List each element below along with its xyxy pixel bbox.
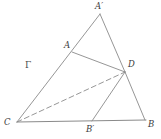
segment-group [17, 14, 146, 122]
geometry-figure: A′ A D C B′ B Γ [0, 0, 161, 139]
segment-C-B [17, 120, 146, 122]
segment-D-B [125, 72, 145, 120]
segment-C-D [17, 72, 125, 122]
vertex-label-B-prime: B′ [86, 125, 94, 134]
segment-Aprime-D [100, 14, 125, 72]
segment-A-D [72, 52, 125, 72]
vertex-label-B: B [148, 120, 154, 129]
vertex-label-A-prime: A′ [95, 2, 103, 11]
vertex-label-C: C [4, 118, 11, 127]
vertex-label-A: A [64, 41, 70, 50]
region-label-gamma: Γ [25, 61, 31, 70]
vertex-label-D: D [128, 60, 135, 69]
